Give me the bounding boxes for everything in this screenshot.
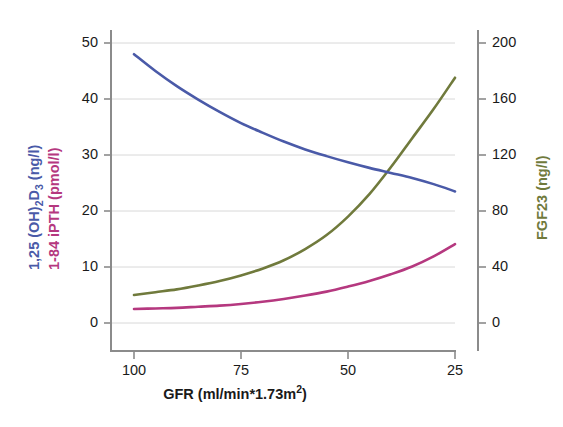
vitd-title-sub1: 2 [34,201,45,207]
vitd-title-sub2: 3 [34,184,45,190]
gridlines [111,43,455,323]
x-tick-label-75: 75 [219,362,263,378]
y-right-tick-label-0: 0 [492,314,532,330]
y-right-tick-label-40: 40 [492,258,532,274]
series-line-fgf23 [134,78,455,295]
y-right-tick-label-80: 80 [492,202,532,218]
y-left-tick-label-30: 30 [62,146,98,162]
series-line-vitamin-d [134,54,455,191]
y-left-tick-label-20: 20 [62,202,98,218]
y-left-tick-label-50: 50 [62,34,98,50]
x-axis-ticks [134,351,455,359]
y-right-axis-title-fgf23: FGF23 (ng/l) [534,155,550,240]
left-axis-title-group: 1,25 (OH)2D3 (ng/l) 1-84 iPTH (pmol/l) [0,0,58,355]
y-left-axis-title-ipth: 1-84 iPTH (pmol/l) [46,148,62,270]
x-tick-label-100: 100 [112,362,156,378]
y-left-tick-label-10: 10 [62,258,98,274]
figure-canvas: 50 40 30 20 10 0 200 160 120 80 40 0 100… [0,0,563,427]
vitd-title-b: D [26,190,42,200]
vitd-title-a: 1,25 (OH) [26,206,42,270]
y-right-tick-label-160: 160 [492,90,532,106]
right-axis-ticks [478,43,486,323]
y-right-tick-label-120: 120 [492,146,532,162]
x-tick-label-50: 50 [326,362,370,378]
x-axis-title: GFR (ml/min*1.73m2) [0,384,470,402]
y-left-tick-label-40: 40 [62,90,98,106]
x-tick-label-25: 25 [433,362,477,378]
y-right-tick-label-200: 200 [492,34,532,50]
y-left-axis-title-vitamin-d: 1,25 (OH)2D3 (ng/l) [26,145,45,270]
vitd-title-c: (ng/l) [26,145,42,184]
y-left-tick-label-0: 0 [62,314,98,330]
x-axis-title-tail: ) [302,386,307,402]
left-axis-ticks [104,43,111,323]
x-axis-title-main: GFR (ml/min*1.73m [163,386,296,402]
